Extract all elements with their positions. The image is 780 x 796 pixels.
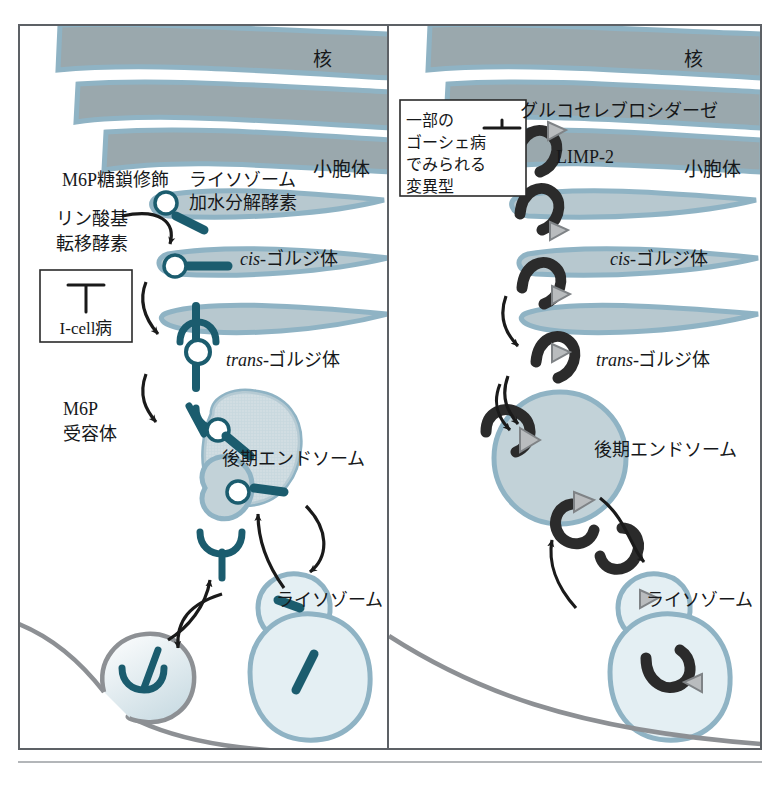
label-trans-golgi-body-left: ゴルジ体 — [268, 350, 340, 370]
label-lysosome-left: ライソゾーム — [276, 590, 383, 610]
label-phosphotransferase-line2-left: 転移酵素 — [56, 234, 128, 254]
label-cis-golgi-body-left: ゴルジ体 — [266, 249, 338, 269]
label-trans-golgi-prefix-left: trans- — [226, 350, 269, 370]
disease-box-right-line3: でみられる — [406, 156, 486, 173]
disease-box-left-label: I-cell病 — [60, 319, 113, 338]
hydrolase-bar-endosome-2 — [254, 488, 284, 492]
label-trans-golgi-body-right: ゴルジ体 — [638, 350, 710, 370]
label-late-endosome-right: 後期エンドソーム — [594, 440, 737, 460]
label-m6p-receptor-line2-left: 受容体 — [63, 424, 117, 444]
disease-box-left[interactable]: I-cell病 — [40, 270, 132, 342]
m6p-tag-endosome-2 — [227, 481, 249, 503]
label-hydrolase-line1-left: ライソゾーム — [189, 170, 296, 190]
label-trans-golgi-prefix-right: trans- — [596, 350, 639, 370]
disease-box-right-line1: 一部の — [406, 112, 454, 129]
label-cis-golgi-prefix-left: cis- — [240, 249, 266, 269]
label-er-right: 小胞体 — [684, 159, 741, 180]
disease-box-right-line4: 変異型 — [406, 178, 454, 195]
m6p-tag-trans — [186, 340, 210, 364]
label-lysosome-right: ライソゾーム — [646, 590, 753, 610]
label-late-endosome-left: 後期エンドソーム — [222, 449, 365, 469]
disease-box-right-line2: ゴーシェ病 — [406, 133, 486, 151]
diagram-svg: I-cell病 核 小胞体 M6P糖鎖修飾 ライソゾーム 加水分解酵素 リン酸基… — [0, 0, 780, 796]
nucleus-and-er-left — [58, 24, 390, 172]
label-glucocerebrosidase-right: グルコセレブロシダーゼ — [520, 100, 718, 121]
label-hydrolase-line2-left: 加水分解酵素 — [189, 193, 297, 213]
label-phosphotransferase-line1-left: リン酸基 — [56, 209, 128, 229]
label-er-left: 小胞体 — [313, 159, 370, 180]
label-m6p-receptor-line1-left: M6P — [63, 399, 98, 419]
label-cis-golgi-body-right: ゴルジ体 — [636, 249, 708, 269]
m6p-tag-er — [155, 192, 177, 214]
label-nucleus-left: 核 — [313, 49, 332, 70]
label-m6p-glycan-left: M6P糖鎖修飾 — [62, 170, 169, 190]
m6p-tag-cis — [164, 255, 186, 277]
figure-root: I-cell病 核 小胞体 M6P糖鎖修飾 ライソゾーム 加水分解酵素 リン酸基… — [0, 0, 780, 796]
disease-box-right[interactable]: 一部の ゴーシェ病 でみられる 変異型 — [400, 100, 526, 196]
label-nucleus-right: 核 — [684, 49, 703, 70]
label-cis-golgi-prefix-right: cis- — [610, 249, 636, 269]
label-limp2-right: LIMP-2 — [556, 147, 614, 167]
